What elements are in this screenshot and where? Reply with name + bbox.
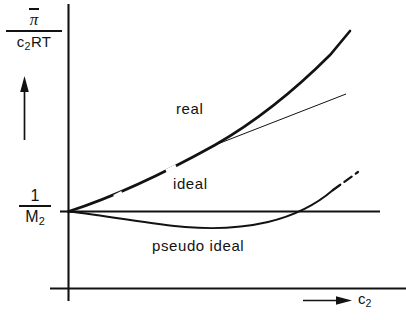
y-axis-label-denominator: c2RT — [4, 34, 64, 52]
overbar — [29, 8, 40, 10]
denominator-rt: RT — [31, 33, 51, 50]
tick-denominator-m: M — [25, 208, 38, 225]
curve-real — [69, 31, 351, 212]
axis-lines — [50, 4, 406, 301]
tick-numerator: 1 — [10, 188, 60, 204]
curve-pseudo-ideal-dashed-tip — [333, 172, 358, 190]
curve-real-tangent — [215, 94, 346, 145]
curve-label-real: real — [176, 101, 203, 116]
tick-fraction-rule — [19, 205, 51, 207]
denominator-c: c — [17, 33, 25, 50]
y-axis-label-numerator: π — [29, 8, 40, 29]
curve-label-ideal: ideal — [173, 176, 208, 191]
x-axis-label-c: c — [358, 290, 366, 307]
y-axis-label: π c2RT — [4, 8, 64, 51]
x-axis-label: c2 — [358, 291, 371, 309]
y-axis-direction-arrow — [20, 76, 29, 140]
pi-glyph: π — [29, 8, 40, 28]
x-axis-label-subscript: 2 — [366, 297, 372, 309]
y-axis-tick-label: 1 M2 — [10, 188, 60, 227]
tick-denominator: M2 — [10, 209, 60, 227]
osmotic-pressure-figure: π c2RT 1 M2 c2 real ideal pseudo ideal — [0, 0, 406, 320]
curve-label-pseudo-ideal: pseudo ideal — [152, 238, 244, 253]
tick-denominator-subscript: 2 — [39, 215, 45, 227]
fraction-rule — [6, 30, 62, 32]
x-axis-direction-arrow — [303, 296, 352, 305]
